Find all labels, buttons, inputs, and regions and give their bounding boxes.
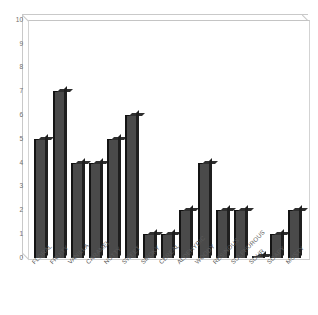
y-axis-tick-label: 1 (19, 231, 23, 238)
y-axis: 109876543210 (0, 0, 28, 315)
bar-side-face (45, 134, 48, 258)
plot-area (29, 20, 309, 258)
y-axis-tick-label: 2 (19, 207, 23, 214)
y-axis-tick-label: 10 (16, 17, 23, 24)
bar-side-face (136, 110, 139, 258)
y-axis-tick-label: 8 (19, 64, 23, 71)
y-axis-tick-label: 4 (19, 160, 23, 167)
x-axis-labels: FLORALFRUITYVANILLACARAMELNUTTYSWEETSMOK… (29, 261, 311, 315)
bar-side-face (118, 134, 121, 258)
bars-layer (29, 20, 309, 258)
bar-side-face (64, 86, 67, 258)
bar-chart: 109876543210 FLORALFRUITYVANILLACARAMELN… (0, 0, 318, 315)
bar-sweet[interactable] (125, 115, 138, 258)
y-axis-tick-label: 0 (19, 255, 23, 262)
y-axis-tick-label: 5 (19, 136, 23, 143)
bar-floral[interactable] (34, 139, 47, 258)
y-axis-tick-label: 6 (19, 112, 23, 119)
y-axis-tick-label: 3 (19, 183, 23, 190)
y-axis-tick-label: 9 (19, 41, 23, 48)
bar-fruity[interactable] (53, 91, 66, 258)
y-axis-tick-label: 7 (19, 88, 23, 95)
